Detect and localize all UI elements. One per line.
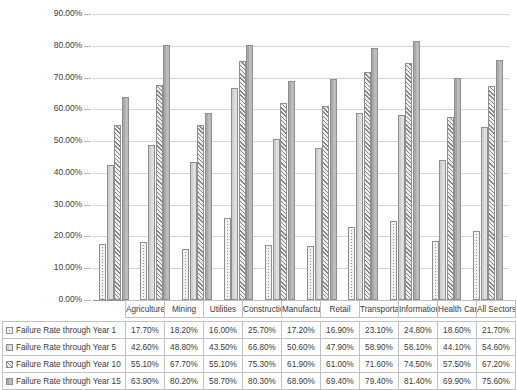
table-cell: 57.50% [438, 356, 477, 373]
bar [273, 139, 280, 300]
y-axis-tick-mark [84, 205, 91, 206]
series-name: Failure Rate through Year 15 [16, 377, 121, 386]
table-row: Failure Rate through Year 117.70%18.20%1… [3, 322, 516, 339]
table-cell: 74.50% [399, 356, 438, 373]
table-cell: 16.90% [321, 322, 360, 339]
data-table: AgricultureMiningUtilitiesConstructionMa… [2, 300, 515, 390]
bar [371, 48, 378, 300]
y-axis-tick-mark [84, 268, 91, 269]
bar [224, 218, 231, 300]
y-axis-tick-mark [84, 173, 91, 174]
y-axis-tick-label: 30.00% [54, 200, 82, 209]
table-cell: 75.60% [477, 373, 516, 390]
y-axis-tick-mark [84, 141, 91, 142]
bar [197, 125, 204, 300]
bar [205, 113, 212, 300]
series-legend-row-label: Failure Rate through Year 1 [3, 322, 126, 339]
bar [488, 86, 495, 300]
bar [107, 165, 114, 300]
y-axis-tick-mark [84, 14, 91, 15]
bar-group [384, 14, 426, 300]
series-name: Failure Rate through Year 10 [16, 360, 121, 369]
legend-swatch-icon [6, 344, 13, 351]
bar [432, 241, 439, 300]
bar-group [176, 14, 218, 300]
bar [140, 242, 147, 300]
bar [322, 106, 329, 300]
bar [356, 113, 363, 300]
bar [454, 78, 461, 300]
table-cell: 67.20% [477, 356, 516, 373]
table-cell: 18.60% [438, 322, 477, 339]
bar [99, 244, 106, 300]
bar-group [467, 14, 509, 300]
legend-swatch-icon [6, 378, 13, 385]
table-column-header: Information [399, 301, 438, 318]
table-cell: 42.60% [126, 339, 165, 356]
bar [413, 41, 420, 300]
table-cell: 69.90% [438, 373, 477, 390]
table-cell: 67.70% [165, 356, 204, 373]
table-cell: 24.80% [399, 322, 438, 339]
table-cell: 48.80% [165, 339, 204, 356]
y-axis-tick-label: 90.00% [54, 9, 82, 18]
y-axis: 90.00%80.00%70.00%60.00%50.00%40.00%30.0… [0, 0, 93, 300]
bar-group [301, 14, 343, 300]
table-cell: 66.80% [243, 339, 282, 356]
table-cell: 61.90% [282, 356, 321, 373]
table-column-header: Construction [243, 301, 282, 318]
bar [390, 221, 397, 300]
table-column-header: Health Care [438, 301, 477, 318]
table-cell: 58.90% [360, 339, 399, 356]
bar-group [259, 14, 301, 300]
bar [481, 127, 488, 301]
table-cell: 63.90% [126, 373, 165, 390]
table-cell: 61.00% [321, 356, 360, 373]
table-header-row: AgricultureMiningUtilitiesConstructionMa… [3, 301, 516, 318]
bar [190, 162, 197, 300]
bar [246, 45, 253, 300]
bar [364, 72, 371, 300]
bar-group [93, 14, 135, 300]
legend-swatch-icon [6, 361, 13, 368]
table-column-header: Utilities [204, 301, 243, 318]
table-cell: 17.20% [282, 322, 321, 339]
bar [405, 63, 412, 300]
bar-group [218, 14, 260, 300]
table-cell: 79.40% [360, 373, 399, 390]
table-cell: 21.70% [477, 322, 516, 339]
table-cell: 43.50% [204, 339, 243, 356]
table-cell: 54.60% [477, 339, 516, 356]
y-axis-tick-mark [84, 236, 91, 237]
table-cell: 17.70% [126, 322, 165, 339]
table-cell: 55.10% [126, 356, 165, 373]
table-cell: 18.20% [165, 322, 204, 339]
table-column-header: Mining [165, 301, 204, 318]
series-legend-row-label: Failure Rate through Year 10 [3, 356, 126, 373]
table-cell: 69.40% [321, 373, 360, 390]
bar [473, 231, 480, 300]
table-cell: 50.60% [282, 339, 321, 356]
table-cell: 80.20% [165, 373, 204, 390]
bar [348, 227, 355, 300]
plot-area [93, 14, 509, 300]
y-axis-tick-mark [84, 109, 91, 110]
bars-layer [93, 14, 509, 300]
table-cell: 58.10% [399, 339, 438, 356]
table-row: Failure Rate through Year 1563.90%80.20%… [3, 373, 516, 390]
y-axis-tick-mark [84, 46, 91, 47]
table-cell: 55.10% [204, 356, 243, 373]
table-column-header: All Sectors [477, 301, 516, 318]
table-cell: 68.90% [282, 373, 321, 390]
y-axis-tick-label: 10.00% [54, 263, 82, 272]
bar [330, 79, 337, 300]
table-column-header: Transportation [360, 301, 399, 318]
y-axis-tick-label: 80.00% [54, 41, 82, 50]
bar [398, 115, 405, 300]
y-axis-tick-label: 40.00% [54, 168, 82, 177]
table-cell: 80.30% [243, 373, 282, 390]
table-row: Failure Rate through Year 1055.10%67.70%… [3, 356, 516, 373]
bar [163, 45, 170, 300]
y-axis-tick-mark [84, 78, 91, 79]
